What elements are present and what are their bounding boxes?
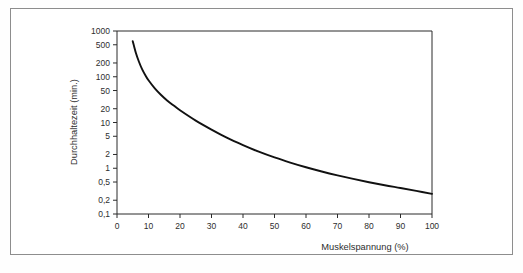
- y-tick-label: 0,5: [98, 177, 110, 187]
- y-tick-label: 2: [105, 149, 110, 159]
- y-tick-label: 0,1: [98, 209, 110, 219]
- y-axis-title: Durchhaltezeit (min.): [69, 79, 79, 165]
- x-tick-label: 50: [270, 221, 280, 231]
- x-tick-label: 70: [333, 221, 343, 231]
- y-axis-ticks: [113, 31, 117, 214]
- y-tick-label: 10: [101, 118, 111, 128]
- x-tick-label: 40: [238, 221, 248, 231]
- y-tick-label: 200: [96, 58, 110, 68]
- x-tick-label: 0: [115, 221, 120, 231]
- x-tick-label: 100: [425, 221, 439, 231]
- x-axis-ticks: [117, 214, 432, 218]
- x-axis-title: Muskelspannung (%): [321, 242, 408, 252]
- plot-frame: [117, 31, 432, 214]
- y-tick-label: 5: [105, 131, 110, 141]
- x-axis-tick-labels: 0102030405060708090100: [115, 221, 440, 231]
- y-tick-label: 100: [96, 72, 110, 82]
- endurance-curve: [133, 41, 432, 194]
- y-tick-label: 50: [101, 86, 111, 96]
- y-tick-label: 0,2: [98, 195, 110, 205]
- y-tick-label: 1: [105, 163, 110, 173]
- x-tick-label: 10: [144, 221, 154, 231]
- x-tick-label: 90: [396, 221, 406, 231]
- y-tick-label: 20: [101, 104, 111, 114]
- y-axis-tick-labels: 10005002001005020105210,50,20,1: [91, 26, 110, 219]
- endurance-time-chart: 10005002001005020105210,50,20,1 01020304…: [0, 0, 523, 273]
- y-tick-label: 1000: [91, 26, 110, 36]
- x-tick-label: 80: [364, 221, 374, 231]
- y-tick-label: 500: [96, 40, 110, 50]
- x-tick-label: 60: [301, 221, 311, 231]
- figure-container: 10005002001005020105210,50,20,1 01020304…: [0, 0, 523, 273]
- x-tick-label: 20: [175, 221, 185, 231]
- x-tick-label: 30: [207, 221, 217, 231]
